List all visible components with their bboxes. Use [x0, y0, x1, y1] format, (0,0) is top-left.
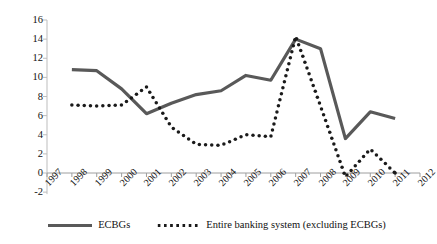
legend-swatch-dotted-line-icon [156, 224, 200, 227]
legend-item-ecbgs: ECBGs [48, 220, 130, 231]
x-axis-tick-label: 2011 [391, 167, 412, 188]
legend-swatch-solid-line-icon [48, 224, 92, 227]
x-axis-tick-label: 2012 [416, 167, 437, 188]
legend-label: Entire banking system (excluding ECBGs) [206, 220, 386, 231]
x-axis-tick-label: 2010 [366, 167, 387, 188]
x-axis-tick-label: 2003 [192, 167, 213, 188]
chart-legend: ECBGs Entire banking system (excluding E… [0, 214, 434, 236]
x-axis-tick-label: 2005 [242, 167, 263, 188]
x-axis-tick-label: 2006 [267, 167, 288, 188]
x-axis-tick-label: 2008 [317, 167, 338, 188]
x-axis-tick-label: 2001 [142, 167, 163, 188]
x-axis-tick-label: 2007 [292, 167, 313, 188]
x-axis-tick-label: 1997 [43, 167, 64, 188]
x-axis-tick-label: 1998 [68, 167, 89, 188]
x-axis-tick-label: 2002 [167, 167, 188, 188]
x-axis-tick-label: 1999 [93, 167, 114, 188]
x-axis-tick-label: 2004 [217, 167, 238, 188]
legend-label: ECBGs [98, 220, 130, 231]
x-axis-tick-label: 2000 [118, 167, 139, 188]
legend-item-entire-banking-system: Entire banking system (excluding ECBGs) [156, 220, 386, 231]
x-axis-tick-label: 2009 [341, 167, 362, 188]
